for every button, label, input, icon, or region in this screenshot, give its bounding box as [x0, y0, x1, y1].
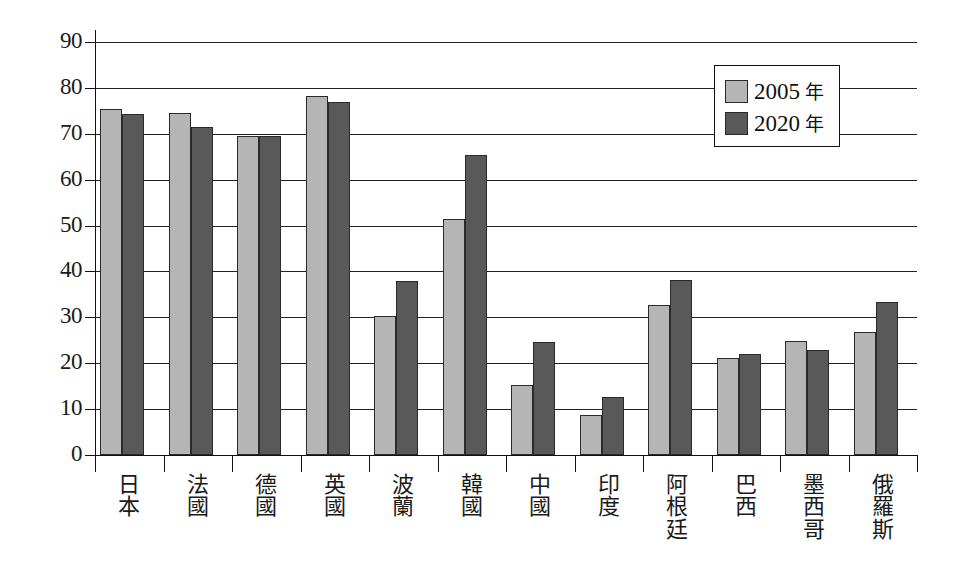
bar-group: [237, 42, 301, 455]
x-axis-label: 印度: [586, 474, 632, 519]
x-axis-label: 阿根廷: [654, 474, 700, 541]
x-axis-tick: [506, 455, 507, 472]
x-axis-label-char: 度: [586, 496, 632, 518]
bar: [739, 354, 761, 455]
bar: [717, 358, 739, 455]
x-axis-tick: [712, 455, 713, 472]
legend-item-2020: 2020年: [725, 107, 839, 139]
bar-group: [854, 42, 918, 455]
y-axis-tick: [85, 226, 95, 227]
x-axis-tick: [575, 455, 576, 472]
bar: [465, 155, 487, 455]
legend-year-2005: 2005: [754, 79, 800, 104]
x-axis-label-char: 日: [106, 474, 152, 496]
bar: [259, 136, 281, 455]
bar: [100, 109, 122, 455]
x-axis-label-char: 西: [791, 496, 837, 518]
y-axis-tick: [85, 180, 95, 181]
x-axis-label: 波蘭: [380, 474, 426, 519]
y-axis-line: [95, 30, 96, 467]
x-axis-label: 法國: [175, 474, 221, 519]
legend-item-2005: 2005年: [725, 75, 839, 107]
bar-group: [443, 42, 507, 455]
x-axis-label-char: 墨: [791, 474, 837, 496]
bar: [670, 280, 692, 455]
x-axis-label: 墨西哥: [791, 474, 837, 541]
bar: [876, 302, 898, 455]
bar: [374, 316, 396, 455]
x-axis-label-char: 西: [723, 496, 769, 518]
legend: 2005年 2020年: [714, 65, 840, 147]
x-axis-tick: [232, 455, 233, 472]
y-axis-label: 80: [36, 75, 82, 98]
x-axis-label-char: 中: [517, 474, 563, 496]
x-axis-label: 日本: [106, 474, 152, 519]
x-axis-tick: [643, 455, 644, 472]
legend-year-2020: 2020: [754, 111, 800, 136]
x-axis-label: 英國: [312, 474, 358, 519]
x-axis-tick: [780, 455, 781, 472]
x-axis-label-char: 本: [106, 496, 152, 518]
bar: [511, 385, 533, 455]
bar: [169, 113, 191, 455]
bar: [854, 332, 876, 455]
y-axis-label: 30: [36, 304, 82, 327]
x-axis-label-char: 波: [380, 474, 426, 496]
y-axis-label: 20: [36, 350, 82, 373]
y-axis-tick: [85, 42, 95, 43]
x-axis-label-char: 蘭: [380, 496, 426, 518]
bar: [648, 305, 670, 456]
y-axis-tick: [85, 317, 95, 318]
y-axis-label: 0: [36, 442, 82, 465]
x-axis-tick: [369, 455, 370, 472]
bar: [533, 342, 555, 455]
y-axis-label: 90: [36, 29, 82, 52]
y-axis-label: 60: [36, 167, 82, 190]
x-axis-label: 巴西: [723, 474, 769, 519]
bar: [785, 341, 807, 455]
x-axis-label: 俄羅斯: [860, 474, 906, 541]
y-axis-label: 10: [36, 396, 82, 419]
y-axis-tick: [85, 271, 95, 272]
y-axis-tick: [85, 409, 95, 410]
x-axis-label: 中國: [517, 474, 563, 519]
bar: [328, 102, 350, 455]
x-axis-label-char: 羅: [860, 496, 906, 518]
x-axis-label-char: 國: [517, 496, 563, 518]
x-axis-tick: [917, 455, 918, 472]
x-axis-label-char: 英: [312, 474, 358, 496]
x-axis-label-char: 國: [175, 496, 221, 518]
bar-group: [511, 42, 575, 455]
bar-group: [374, 42, 438, 455]
legend-unit-2020: 年: [805, 113, 824, 135]
bar: [237, 136, 259, 455]
x-axis-label-char: 哥: [791, 519, 837, 541]
bar: [396, 281, 418, 455]
bar-group: [100, 42, 164, 455]
bar: [807, 350, 829, 455]
x-axis-label-char: 廷: [654, 519, 700, 541]
bar-chart: 0102030405060708090 日本法國德國英國波蘭韓國中國印度阿根廷巴…: [0, 0, 969, 562]
x-axis-label: 德國: [243, 474, 289, 519]
x-axis-tick: [164, 455, 165, 472]
x-axis-tick: [849, 455, 850, 472]
bar: [191, 127, 213, 455]
y-axis-label: 50: [36, 213, 82, 236]
y-axis-tick: [85, 363, 95, 364]
bar: [122, 114, 144, 455]
bar-group: [648, 42, 712, 455]
x-axis-tick: [301, 455, 302, 472]
x-axis-label-char: 德: [243, 474, 289, 496]
x-axis-label-char: 根: [654, 496, 700, 518]
legend-label-2020: 2020年: [754, 112, 824, 135]
x-axis-label: 韓國: [449, 474, 495, 519]
bar-group: [306, 42, 370, 455]
x-axis-tick: [95, 455, 96, 472]
x-axis-label-char: 國: [449, 496, 495, 518]
y-axis-tick: [85, 134, 95, 135]
x-axis-label-char: 印: [586, 474, 632, 496]
legend-swatch-2020: [725, 112, 748, 135]
x-axis-label-char: 國: [243, 496, 289, 518]
x-axis-tick: [438, 455, 439, 472]
x-axis-label-char: 巴: [723, 474, 769, 496]
